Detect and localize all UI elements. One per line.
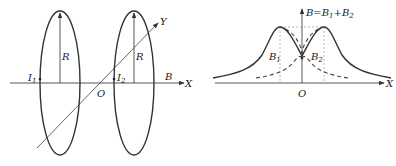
b2-label: B2: [310, 51, 323, 64]
current-marker-left: [39, 78, 42, 81]
radius-label-left: R: [61, 51, 70, 62]
coil-diagram: R R I1 I2 O B X Y: [10, 11, 193, 155]
x-axis-label-left: X: [184, 78, 193, 89]
x-axis-label-right: X: [385, 78, 394, 89]
crossing-point: [301, 57, 304, 60]
total-field-label: B=B1+B2: [305, 7, 354, 20]
y-axis-label: Y: [160, 16, 168, 27]
current-marker-right: [113, 78, 116, 81]
y-axis: [37, 23, 158, 148]
origin-label-right: O: [298, 88, 306, 99]
origin-label-left: O: [97, 88, 105, 99]
b1-label: B1: [268, 51, 281, 64]
radius-label-right: R: [135, 51, 144, 62]
figure: R R I1 I2 O B X Y B=B1+B2 B1 B2 O X: [0, 0, 396, 166]
field-profile-diagram: B=B1+B2 B1 B2 O X: [213, 7, 394, 99]
field-label: B: [164, 71, 172, 82]
